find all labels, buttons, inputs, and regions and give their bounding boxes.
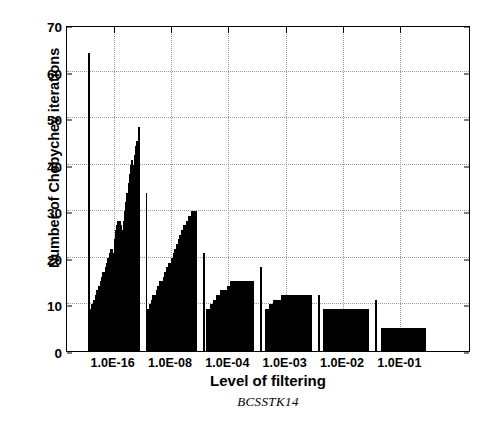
bar-spike — [260, 267, 262, 351]
x-tick-label: 1.0E-16 — [91, 356, 135, 370]
y-tick-mark — [67, 166, 72, 167]
y-tick-mark — [67, 120, 72, 121]
y-tick-mark — [67, 73, 72, 74]
y-tick-mark-right — [464, 353, 469, 354]
y-tick-label: 40 — [47, 159, 62, 174]
x-tick-mark — [400, 345, 401, 351]
bar — [420, 328, 426, 351]
y-gridline — [67, 164, 469, 165]
x-tick-mark — [171, 345, 172, 351]
y-tick-mark — [67, 306, 72, 307]
bar-spike — [318, 295, 320, 351]
x-tick-mark-top — [400, 27, 401, 33]
y-tick-mark-right — [464, 27, 469, 28]
y-tick-mark-right — [464, 306, 469, 307]
bar — [250, 281, 254, 351]
x-tick-label: 1.0E-03 — [263, 356, 307, 370]
plot-area: 010203040506070 — [66, 26, 470, 352]
y-tick-label: 10 — [47, 299, 62, 314]
x-tick-label: 1.0E-01 — [377, 356, 421, 370]
bar — [138, 127, 140, 351]
plot-inner — [67, 27, 469, 351]
y-tick-label: 0 — [54, 346, 62, 361]
bar — [363, 309, 369, 351]
x-tick-mark-top — [343, 27, 344, 33]
x-gridline — [343, 27, 344, 351]
y-tick-mark — [67, 27, 72, 28]
bar — [195, 211, 197, 351]
bar-spike — [88, 53, 90, 351]
x-tick-label: 1.0E-02 — [320, 356, 364, 370]
y-tick-mark — [67, 259, 72, 260]
x-tick-mark-top — [171, 27, 172, 33]
x-tick-mark — [343, 345, 344, 351]
y-tick-mark-right — [464, 259, 469, 260]
bar-spike — [375, 300, 377, 351]
y-tick-label: 50 — [47, 113, 62, 128]
x-tick-mark-top — [228, 27, 229, 33]
bar — [307, 295, 312, 351]
x-gridline — [400, 27, 401, 351]
figure-caption: BCSSTK14 — [66, 394, 470, 410]
figure-canvas: Number of Chebychev iterations 010203040… — [0, 0, 492, 422]
bar-spike — [203, 253, 205, 351]
x-tick-label: 1.0E-08 — [148, 356, 192, 370]
y-gridline — [67, 71, 469, 72]
y-tick-mark — [67, 353, 72, 354]
x-axis-title: Level of filtering — [66, 372, 470, 389]
y-tick-mark-right — [464, 120, 469, 121]
x-tick-mark — [228, 345, 229, 351]
x-tick-mark — [286, 345, 287, 351]
y-tick-label: 20 — [47, 252, 62, 267]
x-tick-mark-top — [114, 27, 115, 33]
y-tick-mark-right — [464, 213, 469, 214]
y-tick-label: 70 — [47, 20, 62, 35]
y-gridline — [67, 117, 469, 118]
x-tick-mark — [114, 345, 115, 351]
y-tick-mark-right — [464, 166, 469, 167]
y-tick-mark — [67, 213, 72, 214]
x-tick-label: 1.0E-04 — [205, 356, 249, 370]
y-tick-label: 60 — [47, 66, 62, 81]
y-tick-mark-right — [464, 73, 469, 74]
y-tick-label: 30 — [47, 206, 62, 221]
x-tick-mark-top — [286, 27, 287, 33]
